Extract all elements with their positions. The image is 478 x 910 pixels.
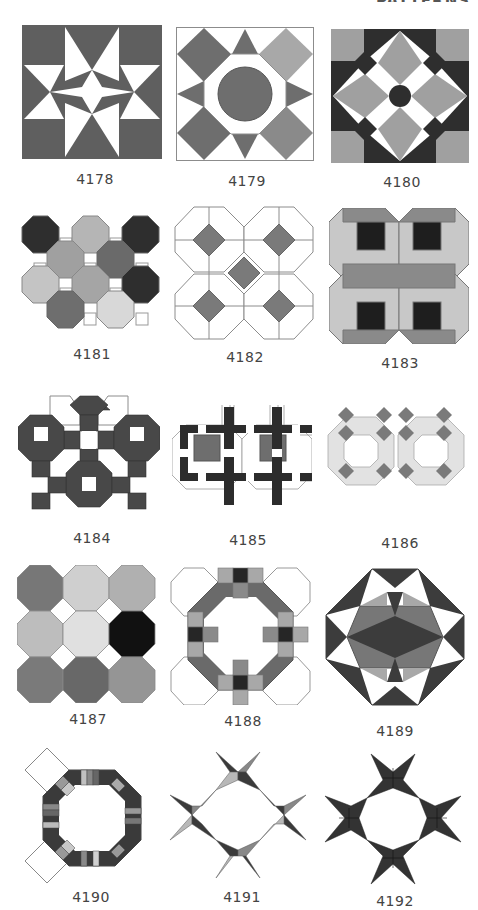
octagon-ring-chain-pattern-icon [18,395,160,510]
page-header-fragment: PATTERNS [376,0,470,2]
diamond-circle-pattern-icon [331,29,469,163]
pattern-4190 [25,748,145,883]
pattern-label: 4184 [52,530,132,546]
pattern-label: 4183 [360,355,440,371]
dark-pinwheel-ring-pattern-icon [323,752,463,887]
pattern-4178 [22,25,162,159]
pattern-4179 [176,27,314,161]
pattern-4180 [331,29,469,163]
octagon-3x3-pattern-icon [17,565,157,703]
striped-octagon-ring-pattern-icon [25,748,145,883]
pattern-4183 [329,208,469,344]
pattern-4192 [323,752,463,887]
pattern-4191 [168,750,308,880]
pattern-label: 4185 [208,532,288,548]
pale-octagon-ring-pattern-icon [326,405,466,500]
pattern-label: 4178 [55,171,135,187]
pattern-label: 4182 [205,349,285,365]
pattern-label: 4190 [51,889,131,905]
star-pattern-icon [22,25,162,159]
pattern-label: 4188 [203,713,283,729]
square-center-octagon-pattern-icon [329,208,469,344]
pattern-label: 4187 [48,711,128,727]
pattern-label: 4192 [355,893,435,909]
pattern-label: 4179 [207,173,287,189]
faceted-octagon-pattern-icon [325,568,465,706]
pattern-label: 4191 [202,889,282,905]
pattern-4181 [20,215,162,330]
pattern-label: 4180 [362,174,442,190]
pattern-4189 [325,568,465,706]
pattern-4186 [326,405,466,500]
circle-octagon-pattern-icon [176,27,314,161]
pattern-4187 [17,565,157,703]
lattice-cross-pattern-icon [172,405,312,505]
pattern-4182 [174,206,314,341]
pattern-label: 4181 [52,346,132,362]
pattern-4185 [172,405,312,505]
mixed-pinwheel-ring-pattern-icon [168,750,308,880]
pattern-4184 [18,395,160,510]
pattern-label: 4189 [355,723,435,739]
pattern-4188 [170,567,312,705]
pattern-label: 4186 [360,535,440,551]
checkered-octagon-ring-pattern-icon [170,567,312,705]
octagon-grid-pattern-icon [20,215,162,330]
outlined-octagon-pattern-icon [174,206,314,341]
